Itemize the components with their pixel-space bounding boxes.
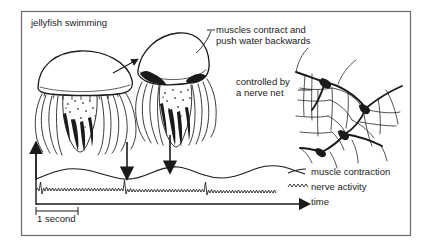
scale-bar-label: 1 second (37, 213, 76, 224)
axis-label-time: time (311, 196, 329, 207)
legend-muscle-contraction: muscle contraction (311, 166, 390, 177)
annotation-nerve-net: controlled by a nerve net (236, 76, 290, 98)
legend-nerve-activity: nerve activity (311, 181, 366, 192)
figure-container: jellyfish swimming muscles contract and … (0, 0, 422, 250)
annotation-muscles-contract: muscles contract and push water backward… (216, 24, 311, 46)
page-title: jellyfish swimming (31, 17, 107, 28)
